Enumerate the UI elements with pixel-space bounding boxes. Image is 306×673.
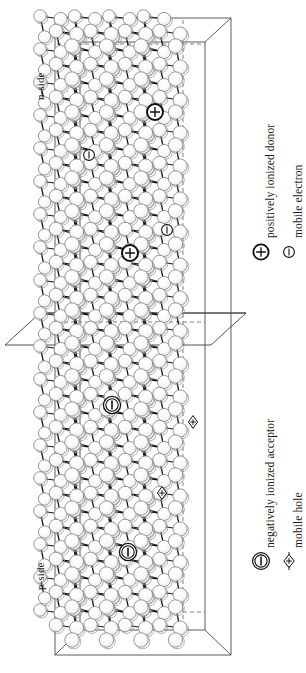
legend-label-electron: mobile electron	[292, 165, 304, 238]
atom	[49, 222, 64, 237]
marker-mobile-electron	[162, 225, 173, 236]
atom	[153, 519, 168, 534]
atom	[34, 10, 48, 24]
atom	[153, 552, 168, 567]
atom	[118, 57, 133, 72]
atom	[153, 453, 168, 468]
atom	[153, 387, 168, 402]
legend-text-donor: positively ionized donor	[264, 124, 276, 238]
atom	[118, 354, 133, 369]
atom	[49, 420, 64, 435]
atom	[49, 321, 64, 336]
atom	[49, 189, 64, 204]
atom	[49, 552, 64, 567]
atom	[118, 189, 133, 204]
atom	[118, 519, 133, 534]
atom	[153, 420, 168, 435]
marker-mobile-hole	[188, 416, 197, 429]
atom	[84, 189, 99, 204]
atom	[84, 585, 99, 600]
atom	[68, 10, 82, 24]
atom	[153, 24, 168, 39]
atom	[49, 90, 64, 105]
marker-negatively-ionized-acceptor	[103, 396, 120, 413]
atom	[153, 189, 168, 204]
atom	[118, 387, 133, 402]
atom	[84, 288, 99, 303]
atom	[84, 387, 99, 402]
region-label-n-side: n-side	[34, 73, 46, 100]
atom	[118, 486, 133, 501]
atom	[84, 255, 99, 270]
atom	[49, 255, 64, 270]
atom	[84, 354, 99, 369]
atom	[118, 618, 133, 633]
atom	[103, 10, 117, 24]
atom	[49, 57, 64, 72]
atom	[84, 420, 99, 435]
atom	[118, 321, 133, 336]
pn-junction-figure: n-side p-side positively ionized donor m…	[0, 0, 306, 673]
atom	[118, 156, 133, 171]
atom	[84, 90, 99, 105]
atom	[118, 90, 133, 105]
atom	[118, 24, 133, 39]
atom	[49, 387, 64, 402]
atom	[153, 288, 168, 303]
atom	[84, 123, 99, 138]
atom	[153, 123, 168, 138]
atom	[84, 24, 99, 39]
atom	[49, 288, 64, 303]
atom	[153, 156, 168, 171]
atom	[118, 288, 133, 303]
atom	[84, 519, 99, 534]
atom	[49, 618, 64, 633]
marker-positively-ionized-donor	[147, 104, 163, 120]
region-label-p-side: p-side	[34, 563, 46, 590]
atom	[49, 453, 64, 468]
atom	[153, 57, 168, 72]
atom	[49, 486, 64, 501]
marker-negatively-ionized-acceptor	[119, 543, 136, 560]
atom	[118, 453, 133, 468]
atom	[84, 222, 99, 237]
legend-text-hole: mobile hole	[292, 492, 304, 548]
legend-text-acceptor: negatively ionized acceptor	[264, 419, 276, 548]
atom	[49, 585, 64, 600]
legend-text-electron: mobile electron	[292, 165, 304, 238]
atom	[153, 585, 168, 600]
atom	[118, 123, 133, 138]
legend-label-donor: positively ionized donor	[264, 124, 276, 238]
atom	[137, 10, 151, 24]
legend-label-acceptor: negatively ionized acceptor	[264, 419, 276, 548]
atom	[84, 321, 99, 336]
atom	[84, 552, 99, 567]
atom	[84, 57, 99, 72]
marker-mobile-electron	[84, 150, 95, 161]
atom	[118, 420, 133, 435]
atom	[84, 486, 99, 501]
atom	[118, 585, 133, 600]
atom	[49, 24, 64, 39]
atom	[84, 618, 99, 633]
region-label-p-side-text: p-side	[34, 563, 46, 590]
atom	[49, 156, 64, 171]
atom	[118, 222, 133, 237]
atom	[49, 354, 64, 369]
atom	[153, 255, 168, 270]
atom	[153, 354, 168, 369]
legend-label-hole: mobile hole	[292, 492, 304, 548]
atom	[84, 453, 99, 468]
atom	[153, 618, 168, 633]
region-label-n-side-text: n-side	[34, 73, 46, 100]
atom	[49, 123, 64, 138]
marker-positively-ionized-donor	[122, 245, 138, 261]
atom	[153, 321, 168, 336]
atom	[49, 519, 64, 534]
